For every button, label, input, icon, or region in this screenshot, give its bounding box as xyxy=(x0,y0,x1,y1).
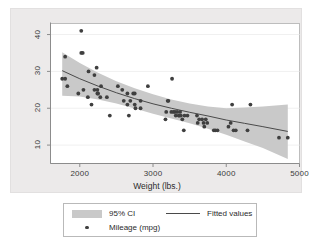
graph-frame: 10203040 2000300040005000 Weight (lbs.) xyxy=(10,8,302,193)
x-tick-3000: 3000 xyxy=(136,169,170,178)
chart-screenshot: 10203040 2000300040005000 Weight (lbs.) … xyxy=(0,0,315,251)
legend-item-ci: 95% CI xyxy=(72,209,135,218)
chart-canvas xyxy=(11,9,303,194)
x-tick-5000: 5000 xyxy=(283,169,316,178)
mileage-dot-swatch xyxy=(72,226,102,229)
legend-item-mileage: Mileage (mpg) xyxy=(72,223,160,232)
legend-label-ci: 95% CI xyxy=(109,209,135,218)
y-tick-10: 10 xyxy=(33,137,42,153)
ci-band-swatch xyxy=(72,210,102,218)
y-tick-20: 20 xyxy=(33,100,42,116)
legend-label-mileage: Mileage (mpg) xyxy=(109,223,160,232)
x-axis-title: Weight (lbs.) xyxy=(11,181,303,191)
legend-item-fitted: Fitted values xyxy=(166,209,252,218)
legend-label-fitted: Fitted values xyxy=(207,209,252,218)
y-tick-40: 40 xyxy=(33,26,42,42)
chart-legend: 95% CI Fitted values Mileage (mpg) xyxy=(63,203,257,237)
fitted-line-swatch xyxy=(166,213,200,214)
x-tick-4000: 4000 xyxy=(209,169,243,178)
y-tick-30: 30 xyxy=(33,63,42,79)
x-tick-2000: 2000 xyxy=(63,169,97,178)
